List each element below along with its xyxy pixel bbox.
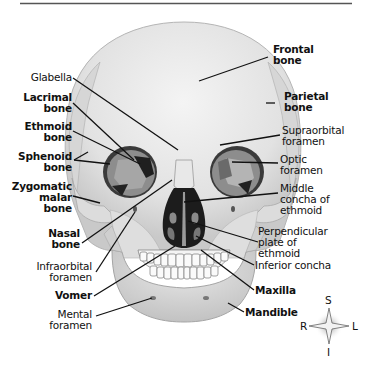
label-perpendicular-plate: Perpendicular plate of ethmoid — [258, 226, 328, 259]
label-maxilla: Maxilla — [255, 285, 296, 296]
compass-superior: S — [325, 294, 332, 306]
label-parietal-bone: Parietal bone — [284, 91, 329, 113]
label-vomer: Vomer — [10, 290, 92, 301]
label-optic-foramen: Optic foramen — [280, 154, 323, 176]
teeth — [138, 250, 230, 279]
label-lacrimal-bone: Lacrimal bone — [10, 92, 72, 114]
skull-diagram: Glabella Lacrimal bone Ethmoid bone Sphe… — [0, 0, 368, 372]
label-mental-foramen: Mental foramen — [10, 309, 92, 331]
label-ethmoid-bone: Ethmoid bone — [10, 121, 72, 143]
label-sphenoid-bone: Sphenoid bone — [10, 151, 72, 173]
label-zygomatic-malar-bone: Zygomatic malar bone — [4, 181, 72, 214]
compass-inferior: I — [327, 346, 330, 358]
label-nasal-bone: Nasal bone — [10, 228, 80, 250]
label-glabella: Glabella — [10, 72, 72, 83]
compass-left: L — [352, 320, 358, 332]
label-inferior-concha: Inferior concha — [255, 260, 331, 271]
label-middle-concha: Middle concha of ethmoid — [280, 183, 329, 216]
label-frontal-bone: Frontal bone — [273, 44, 314, 66]
label-supraorbital-foramen: Supraorbital foramen — [282, 125, 344, 147]
label-mandible: Mandible — [245, 307, 298, 318]
label-infraorbital-foramen: Infraorbital foramen — [10, 261, 92, 283]
compass-rose — [309, 308, 349, 344]
compass-right: R — [300, 320, 307, 332]
